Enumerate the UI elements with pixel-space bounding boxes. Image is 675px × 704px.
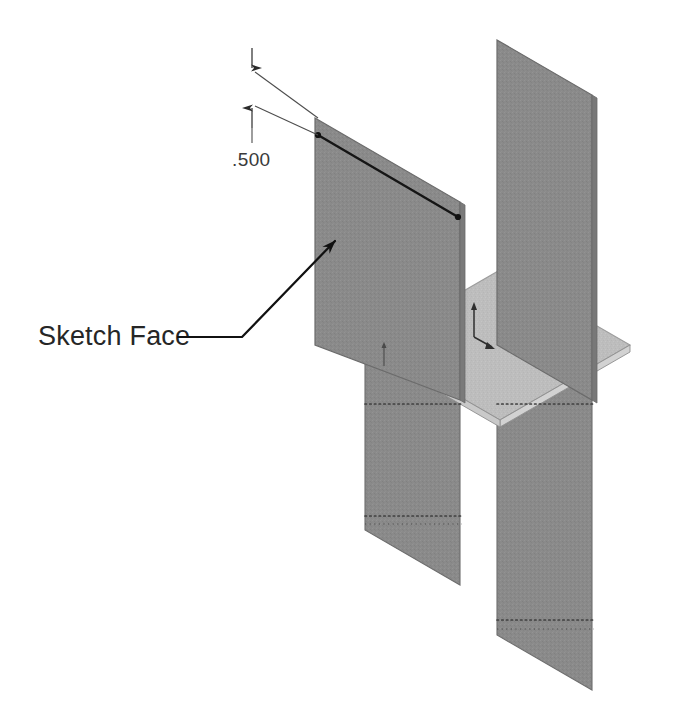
dimension-extension-line-top [255, 72, 318, 118]
right-wall-thickness [592, 95, 597, 403]
drawing-canvas: .500 Sketch Face [0, 0, 675, 704]
sketch-endpoint-end[interactable] [455, 214, 461, 220]
sketch-face-leader-line [178, 241, 335, 337]
sketch-face-label[interactable]: Sketch Face [38, 321, 190, 351]
dimension-500[interactable]: .500 [232, 48, 318, 170]
isometric-model-view: .500 Sketch Face [0, 0, 675, 704]
face-right-wall-upper[interactable] [497, 40, 597, 403]
dimension-extension-line-bottom [255, 106, 318, 135]
sketch-face-callout[interactable]: Sketch Face [38, 241, 335, 351]
face-left-wall-upper-sketch-face[interactable] [315, 118, 465, 403]
dimension-value-text[interactable]: .500 [232, 149, 271, 170]
left-wall-thickness [460, 202, 465, 403]
